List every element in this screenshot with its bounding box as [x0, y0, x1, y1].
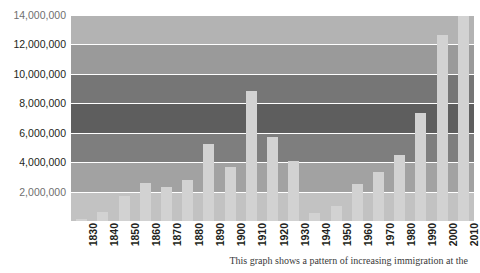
y-tick-label: 12,000,000 — [13, 38, 66, 50]
bar — [225, 167, 236, 221]
bar — [352, 184, 363, 221]
bar — [373, 172, 384, 221]
bar — [182, 180, 193, 221]
bar — [246, 91, 257, 221]
x-tick-label: 2010 — [468, 223, 480, 246]
bar — [119, 196, 130, 221]
x-tick-label: 1880 — [193, 223, 205, 246]
x-tick-label: 1850 — [129, 223, 141, 246]
bar — [288, 161, 299, 222]
y-tick-label: 14,000,000 — [13, 9, 66, 21]
bar — [415, 113, 426, 221]
bar-series — [71, 0, 474, 221]
x-tick-label: 1900 — [235, 223, 247, 246]
bar — [437, 35, 448, 221]
bar — [331, 206, 342, 221]
y-tick-label: 6,000,000 — [19, 127, 66, 139]
x-tick-label: 1920 — [278, 223, 290, 246]
bar — [203, 144, 214, 221]
bar — [267, 137, 278, 222]
y-axis: 2,000,0004,000,0006,000,0008,000,00010,0… — [0, 0, 71, 221]
bar — [97, 212, 108, 221]
bar — [309, 213, 320, 221]
x-tick-label: 1990 — [426, 223, 438, 246]
x-tick-label: 1910 — [256, 223, 268, 246]
x-tick-label: 1940 — [320, 223, 332, 246]
x-tick-label: 1950 — [341, 223, 353, 246]
y-tick-label: 4,000,000 — [19, 156, 66, 168]
x-tick-label: 1960 — [362, 223, 374, 246]
bar — [161, 187, 172, 221]
bar — [140, 183, 151, 221]
plot-area — [71, 0, 474, 221]
x-tick-label: 1890 — [214, 223, 226, 246]
y-tick-label: 2,000,000 — [19, 186, 66, 198]
figure-caption: This graph shows a pattern of increasing… — [0, 255, 474, 266]
bar — [394, 155, 405, 221]
bar — [458, 16, 469, 221]
x-tick-label: 1840 — [108, 223, 120, 246]
y-tick-label: 8,000,000 — [19, 97, 66, 109]
x-tick-label: 1970 — [384, 223, 396, 246]
x-axis: 1830184018501860187018801890190019101920… — [71, 221, 474, 255]
x-tick-label: 1980 — [405, 223, 417, 246]
x-tick-label: 1870 — [171, 223, 183, 246]
x-tick-label: 1860 — [150, 223, 162, 246]
x-tick-label: 1830 — [87, 223, 99, 246]
y-tick-label: 10,000,000 — [13, 68, 66, 80]
x-tick-label: 1930 — [299, 223, 311, 246]
x-tick-label: 2000 — [447, 223, 459, 246]
